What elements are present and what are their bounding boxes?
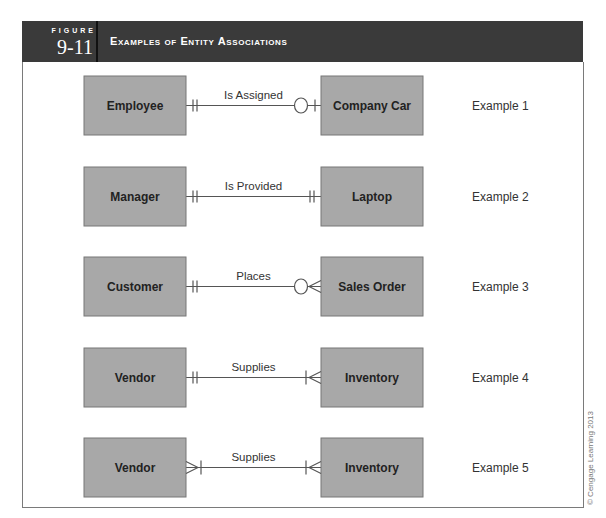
relationship-label: Is Provided: [225, 180, 283, 192]
entity-label-left: Vendor: [115, 371, 156, 385]
er-diagram: EmployeeCompany CarIs AssignedExample 1M…: [0, 0, 606, 518]
crows-foot-icon: [309, 287, 321, 293]
entity-label-right: Inventory: [345, 461, 399, 475]
crows-foot-icon: [309, 372, 321, 378]
relationship-row: VendorInventorySuppliesExample 4: [84, 348, 529, 407]
zero-circle-icon: [295, 98, 308, 113]
relationship-label: Is Assigned: [224, 89, 283, 101]
zero-circle-icon: [295, 279, 308, 294]
entity-label-left: Manager: [110, 190, 160, 204]
example-label: Example 1: [472, 99, 529, 113]
entity-label-left: Customer: [107, 280, 163, 294]
example-label: Example 4: [472, 371, 529, 385]
entity-label-right: Laptop: [352, 190, 392, 204]
crows-foot-icon: [309, 462, 321, 468]
crows-foot-icon: [186, 462, 198, 468]
example-label: Example 3: [472, 280, 529, 294]
relationship-label: Supplies: [231, 451, 275, 463]
crows-foot-icon: [309, 281, 321, 287]
entity-label-right: Inventory: [345, 371, 399, 385]
copyright-notice: © Cengage Learning 2013: [586, 411, 595, 505]
entity-label-left: Employee: [107, 99, 164, 113]
relationship-row: ManagerLaptopIs ProvidedExample 2: [84, 167, 529, 226]
relationship-label: Places: [236, 270, 271, 282]
crows-foot-icon: [309, 378, 321, 384]
example-label: Example 5: [472, 461, 529, 475]
entity-label-left: Vendor: [115, 461, 156, 475]
relationship-row: EmployeeCompany CarIs AssignedExample 1: [84, 76, 529, 135]
relationship-row: CustomerSales OrderPlacesExample 3: [84, 257, 529, 316]
example-label: Example 2: [472, 190, 529, 204]
crows-foot-icon: [309, 468, 321, 474]
entity-label-right: Sales Order: [338, 280, 406, 294]
crows-foot-icon: [186, 468, 198, 474]
entity-label-right: Company Car: [333, 99, 411, 113]
relationship-label: Supplies: [231, 361, 275, 373]
relationship-row: VendorInventorySuppliesExample 5: [84, 438, 529, 497]
